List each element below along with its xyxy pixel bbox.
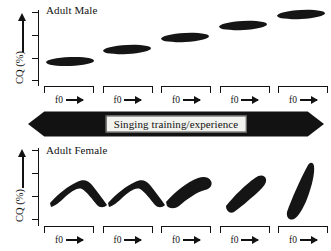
arrow-right-icon bbox=[183, 99, 200, 101]
x-bracket bbox=[278, 86, 328, 93]
arrow-right-icon bbox=[300, 239, 317, 241]
x-bracket-label: f0 bbox=[220, 95, 270, 105]
f0-label: f0 bbox=[231, 95, 239, 105]
x-bracket-label: f0 bbox=[278, 235, 328, 245]
x-bracket-label: f0 bbox=[44, 235, 94, 245]
x-bracket-group: f0 bbox=[103, 86, 153, 105]
arrow-right-icon bbox=[66, 99, 83, 101]
y-axis-label-female: CQ (%) bbox=[14, 176, 25, 236]
x-bracket bbox=[220, 226, 270, 233]
x-bracket bbox=[278, 226, 328, 233]
x-bracket-group: f0 bbox=[44, 226, 94, 245]
x-bracket-group: f0 bbox=[220, 226, 270, 245]
x-axis-brackets-male: f0 f0 f0 f0 bbox=[44, 86, 328, 105]
f0-label: f0 bbox=[114, 95, 122, 105]
x-bracket-group: f0 bbox=[220, 86, 270, 105]
x-axis-brackets-female: f0 f0 f0 f0 bbox=[44, 226, 328, 245]
f0-label: f0 bbox=[55, 95, 63, 105]
panel-adult-male: Adult Male CQ (%) f0 bbox=[0, 0, 331, 108]
x-bracket bbox=[161, 226, 211, 233]
x-bracket-label: f0 bbox=[44, 95, 94, 105]
f0-label: f0 bbox=[114, 235, 122, 245]
x-bracket bbox=[44, 226, 94, 233]
f0-label: f0 bbox=[289, 95, 297, 105]
data-glyph-male-1 bbox=[46, 56, 94, 67]
plot-area-male bbox=[44, 0, 328, 86]
y-axis-label-male: CQ (%) bbox=[14, 38, 25, 98]
arrow-right-icon bbox=[183, 239, 200, 241]
data-glyph-male-4 bbox=[219, 20, 267, 31]
f0-label: f0 bbox=[231, 235, 239, 245]
data-glyph-male-5 bbox=[277, 9, 325, 20]
data-glyph-male-3 bbox=[161, 32, 209, 43]
x-bracket bbox=[103, 226, 153, 233]
y-axis-tick bbox=[32, 196, 38, 197]
x-bracket-group: f0 bbox=[278, 86, 328, 105]
training-experience-banner: Singing training/experience bbox=[28, 111, 324, 137]
f0-label: f0 bbox=[172, 235, 180, 245]
y-axis-tick bbox=[32, 80, 38, 81]
y-axis-line-female bbox=[38, 148, 39, 226]
female-glyph-layer bbox=[44, 140, 328, 226]
y-axis-tick bbox=[32, 12, 38, 13]
arrow-right-icon bbox=[241, 239, 258, 241]
x-bracket-group: f0 bbox=[278, 226, 328, 245]
x-bracket bbox=[220, 86, 270, 93]
x-bracket-label: f0 bbox=[161, 235, 211, 245]
data-glyph-female-1 bbox=[50, 180, 107, 207]
arrow-right-icon bbox=[124, 99, 141, 101]
plot-area-female bbox=[44, 140, 328, 226]
f0-label: f0 bbox=[55, 235, 63, 245]
banner-label: Singing training/experience bbox=[106, 116, 247, 133]
x-bracket-group: f0 bbox=[161, 226, 211, 245]
x-bracket bbox=[103, 86, 153, 93]
x-bracket-group: f0 bbox=[161, 86, 211, 105]
data-glyph-female-5 bbox=[287, 163, 314, 220]
y-axis-tick bbox=[32, 219, 38, 220]
data-glyph-female-4 bbox=[226, 175, 266, 212]
f0-label: f0 bbox=[172, 95, 180, 105]
arrow-right-icon bbox=[66, 239, 83, 241]
x-bracket bbox=[161, 86, 211, 93]
y-axis-tick bbox=[32, 173, 38, 174]
x-bracket bbox=[44, 86, 94, 93]
y-axis-tick bbox=[32, 150, 38, 151]
x-bracket-label: f0 bbox=[103, 235, 153, 245]
x-bracket-label: f0 bbox=[220, 235, 270, 245]
x-bracket-label: f0 bbox=[161, 95, 211, 105]
x-bracket-group: f0 bbox=[103, 226, 153, 245]
y-axis-tick bbox=[32, 35, 38, 36]
x-bracket-group: f0 bbox=[44, 86, 94, 105]
f0-label: f0 bbox=[289, 235, 297, 245]
y-axis-line-male bbox=[38, 10, 39, 86]
panel-adult-female: Adult Female CQ (%) bbox=[0, 140, 331, 251]
data-glyph-male-2 bbox=[103, 44, 151, 55]
data-glyph-female-2 bbox=[108, 180, 165, 207]
y-axis-tick bbox=[32, 58, 38, 59]
x-bracket-label: f0 bbox=[278, 95, 328, 105]
data-glyph-female-3 bbox=[166, 177, 212, 208]
arrow-right-icon bbox=[124, 239, 141, 241]
arrow-right-icon bbox=[300, 99, 317, 101]
arrow-right-icon bbox=[241, 99, 258, 101]
x-bracket-label: f0 bbox=[103, 95, 153, 105]
figure-root: Adult Male CQ (%) f0 bbox=[0, 0, 331, 251]
